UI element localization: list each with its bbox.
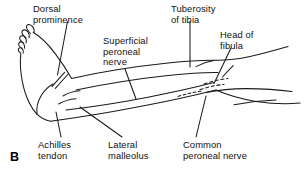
label-dorsal-prominence: Dorsal prominence bbox=[33, 4, 83, 25]
label-superficial-peroneal-nerve: Superficial peroneal nerve bbox=[103, 36, 148, 68]
leader-dorsal-prominence bbox=[58, 22, 68, 76]
anatomical-figure-panel-b: Dorsal prominence Superficial peroneal n… bbox=[0, 0, 306, 172]
label-line: nerve bbox=[103, 57, 148, 68]
label-line: prominence bbox=[33, 15, 83, 26]
label-line: Dorsal bbox=[33, 4, 83, 15]
label-line: fibula bbox=[220, 41, 254, 52]
heel-contour bbox=[29, 103, 50, 121]
label-line: Lateral bbox=[108, 140, 149, 151]
ankle-crease-upper bbox=[63, 91, 80, 96]
label-lateral-malleolus: Lateral malleolus bbox=[108, 140, 149, 161]
leader-head-of-fibula bbox=[214, 48, 231, 84]
label-line: Head of bbox=[220, 30, 254, 41]
label-line: Superficial bbox=[103, 36, 148, 47]
label-line: Tuberosity bbox=[171, 4, 215, 15]
foot-dorsum-contour bbox=[33, 32, 71, 78]
toe-fifth bbox=[18, 48, 23, 53]
tibia-crest-line bbox=[76, 73, 218, 90]
leader-superficial-peroneal-nerve bbox=[125, 69, 136, 99]
label-head-of-fibula: Head of fibula bbox=[220, 30, 254, 51]
label-line: peroneal nerve bbox=[183, 151, 247, 162]
knee-posterior-crease bbox=[206, 89, 292, 93]
panel-letter-b: B bbox=[10, 151, 19, 164]
calf-posterior-border bbox=[50, 90, 216, 121]
leader-common-peroneal-nerve bbox=[196, 96, 206, 137]
label-line: Common bbox=[183, 140, 247, 151]
foot-lateral-border bbox=[20, 54, 29, 103]
label-achilles-tendon: Achilles tendon bbox=[38, 140, 71, 161]
label-line: of tibia bbox=[171, 15, 215, 26]
label-line: Achilles bbox=[38, 140, 71, 151]
label-line: tendon bbox=[38, 151, 71, 162]
lateral-malleolus-outline bbox=[59, 99, 76, 104]
tibial-tuberosity-bump bbox=[196, 61, 214, 67]
label-common-peroneal-nerve: Common peroneal nerve bbox=[183, 140, 247, 161]
leader-achilles-tendon bbox=[56, 112, 61, 137]
posterior-heel-curve bbox=[37, 84, 53, 114]
fibular-head-marker bbox=[222, 66, 233, 77]
label-tuberosity-of-tibia: Tuberosity of tibia bbox=[171, 4, 215, 25]
label-line: malleolus bbox=[108, 151, 149, 162]
superficial-peroneal-nerve-dashed bbox=[178, 91, 202, 96]
